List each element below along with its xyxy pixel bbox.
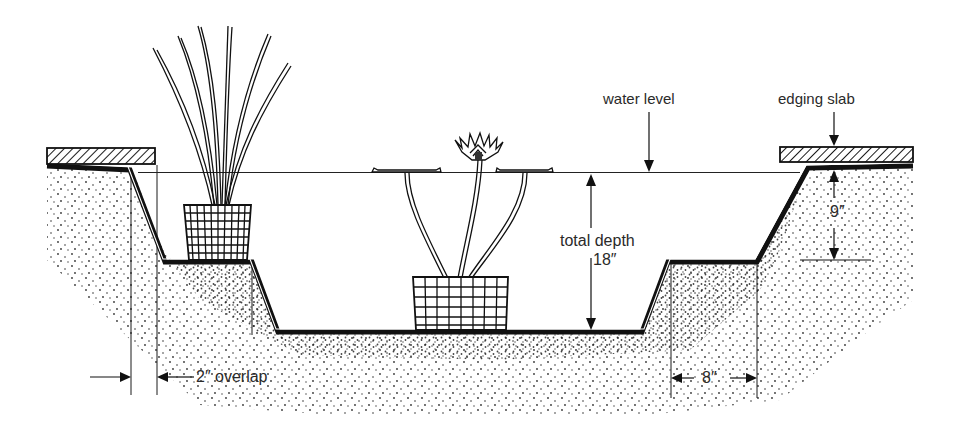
lily-stems <box>405 160 527 280</box>
edging-slab-arrow <box>829 112 839 146</box>
plant-basket <box>184 205 251 260</box>
overlap-label: 2″ overlap <box>196 369 267 385</box>
total-depth-value: 18″ <box>593 252 616 268</box>
water-level-arrow <box>644 112 654 172</box>
shelf-depth-value: 9″ <box>830 204 845 220</box>
lily-basket <box>413 277 508 330</box>
lily-pads <box>372 168 553 172</box>
edging-slab-label: edging slab <box>778 91 855 106</box>
water-level-label: water level <box>603 91 675 106</box>
total-depth-label: total depth <box>560 233 635 249</box>
lily-flower <box>455 133 503 160</box>
pond-cross-section-diagram: water level edging slab total depth 18″ … <box>0 0 953 424</box>
right-edging-slab <box>780 147 913 162</box>
reed-leaves <box>153 26 291 205</box>
left-edging-slab <box>47 148 155 164</box>
water-lily <box>372 133 553 330</box>
shelf-width-value: 8″ <box>702 370 717 386</box>
marginal-plant <box>153 26 291 260</box>
